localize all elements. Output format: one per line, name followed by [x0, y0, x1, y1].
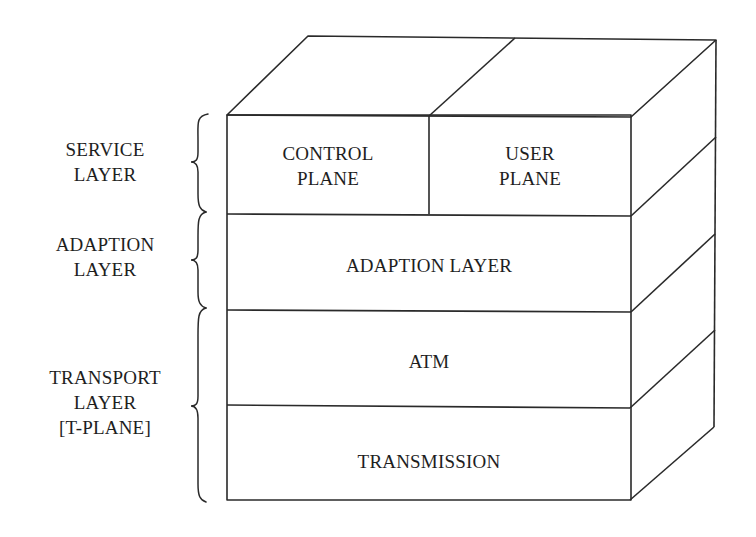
control-plane-label: CONTROL PLANE [227, 141, 429, 191]
right-diag-3 [630, 330, 715, 408]
right-diag-2 [631, 234, 715, 312]
front-divider-2 [227, 310, 631, 312]
side-label-transport: TRANSPORT LAYER [T-PLANE] [20, 365, 190, 440]
user-plane-label: USER PLANE [429, 141, 631, 191]
right-diag-1 [631, 137, 716, 216]
front-divider-3 [227, 405, 630, 408]
adaption-layer-label: ADAPTION LAYER [227, 253, 631, 278]
brace-adaption-icon [191, 212, 206, 308]
side-label-service: SERVICE LAYER [30, 137, 180, 187]
right-back-edge [714, 40, 716, 427]
transmission-layer-label: TRANSMISSION [227, 449, 631, 474]
brace-service-icon [191, 114, 208, 212]
atm-layer-label: ATM [227, 349, 631, 374]
brace-transport-icon [191, 308, 206, 502]
side-label-adaption: ADAPTION LAYER [30, 232, 180, 282]
right-diag-4 [630, 427, 714, 500]
top-plane-divider [429, 38, 515, 116]
front-divider-1 [227, 214, 631, 216]
